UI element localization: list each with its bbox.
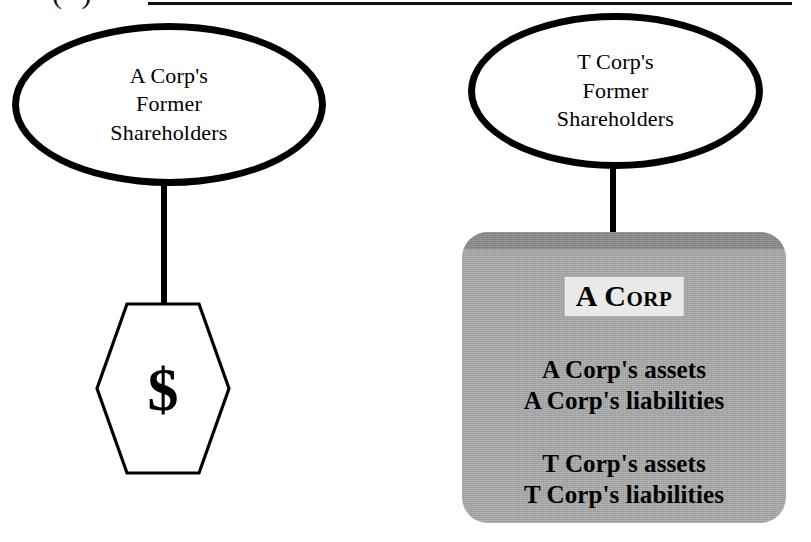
ellipse-a-line-1: A Corp's	[110, 62, 227, 91]
node-a-corp-former-shareholders: A Corp's Former Shareholders	[12, 23, 326, 186]
a-corp-balance-items: A Corp's assets A Corp's liabilities	[462, 354, 786, 417]
caption-row: ( )	[0, 0, 811, 14]
ellipse-t-line-1: T Corp's	[557, 48, 674, 77]
diagram-canvas: ( ) A Corp's Former Shareholders T Corp'…	[0, 0, 811, 542]
ellipse-a-line-3: Shareholders	[110, 119, 227, 148]
connector-a-shareholders-to-cash	[161, 181, 167, 305]
ellipse-t-label: T Corp's Former Shareholders	[557, 48, 674, 134]
a-corp-assets-line: A Corp's assets	[462, 354, 786, 385]
ellipse-t-line-3: Shareholders	[557, 105, 674, 134]
ellipse-a-label: A Corp's Former Shareholders	[110, 62, 227, 148]
a-corp-liabilities-line: A Corp's liabilities	[462, 385, 786, 416]
node-cash-consideration: $	[95, 302, 231, 475]
node-a-corp-entity: A Corp A Corp's assets A Corp's liabilit…	[462, 232, 786, 523]
ellipse-t-line-2: Former	[557, 77, 674, 106]
t-corp-balance-items: T Corp's assets T Corp's liabilities	[462, 448, 786, 511]
t-corp-liabilities-line: T Corp's liabilities	[462, 479, 786, 510]
caption-paren-label: ( )	[52, 0, 97, 5]
dollar-sign-icon: $	[95, 302, 231, 475]
caption-rule	[148, 2, 792, 5]
gray-box-content: A Corp A Corp's assets A Corp's liabilit…	[462, 232, 786, 523]
ellipse-a-line-2: Former	[110, 90, 227, 119]
node-t-corp-former-shareholders: T Corp's Former Shareholders	[468, 13, 763, 169]
a-corp-title: A Corp	[565, 277, 684, 316]
t-corp-assets-line: T Corp's assets	[462, 448, 786, 479]
